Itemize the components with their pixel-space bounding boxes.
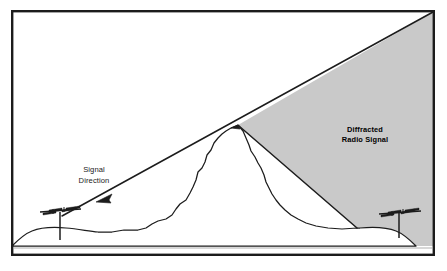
diffracted-signal-label-line2: Radio Signal: [342, 135, 389, 144]
signal-direction-label-line1: Signal: [83, 165, 105, 174]
diffraction-diagram: Diffracted Radio Signal Signal Direction: [0, 0, 447, 271]
diagram-canvas: Diffracted Radio Signal Signal Direction: [0, 0, 447, 271]
signal-direction-label-line2: Direction: [79, 176, 110, 185]
diffracted-signal-label-line1: Diffracted: [347, 125, 383, 134]
